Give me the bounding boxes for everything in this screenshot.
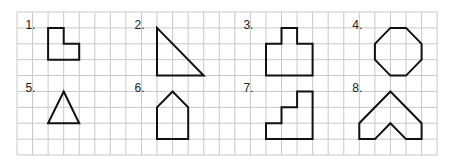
stepped-rectangle-outline — [266, 28, 313, 76]
figure-chevron: 8. — [352, 81, 421, 139]
figure-number-label: 6. — [134, 81, 144, 95]
figure-right-triangle: 2. — [134, 18, 203, 76]
figure-number-label: 8. — [352, 81, 362, 95]
right-triangle-outline — [157, 28, 204, 76]
staircase-outline — [266, 92, 313, 140]
figures-layer: 1.2.3.4.5.6.7.8. — [26, 18, 422, 139]
octagon-outline — [375, 28, 422, 76]
figure-number-label: 2. — [134, 18, 144, 32]
figure-staircase: 7. — [243, 81, 312, 139]
figure-number-label: 7. — [243, 81, 253, 95]
figure-pentagon-house: 6. — [134, 81, 188, 139]
figure-l-shape: 1. — [26, 18, 80, 60]
figure-triangle: 5. — [26, 81, 80, 123]
figure-number-label: 5. — [26, 81, 36, 95]
figure-number-label: 3. — [243, 18, 253, 32]
shapes-worksheet: 1.2.3.4.5.6.7.8. — [0, 0, 453, 166]
figure-number-label: 1. — [26, 18, 36, 32]
figure-octagon: 4. — [352, 18, 421, 76]
figure-number-label: 4. — [352, 18, 362, 32]
figure-stepped-rectangle: 3. — [243, 18, 312, 76]
grid-paper — [17, 12, 437, 155]
